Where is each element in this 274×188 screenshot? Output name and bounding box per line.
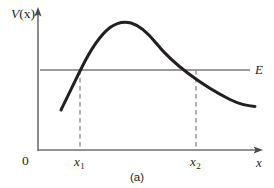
origin-label: 0	[22, 154, 29, 168]
potential-energy-figure: V(x) E x 0 x1 x2 (a)	[0, 0, 274, 188]
potential-energy-curve	[61, 22, 255, 110]
turning-point-2-subscript: 2	[196, 161, 201, 171]
y-axis-label-arg: (x)	[19, 6, 35, 21]
x-axis	[38, 146, 263, 153]
energy-level-label: E	[255, 63, 263, 76]
turning-point-2-symbol: x	[190, 154, 196, 169]
turning-point-1-symbol: x	[74, 154, 80, 169]
figure-caption: (a)	[0, 171, 274, 183]
turning-point-1-label: x1	[74, 155, 84, 168]
y-axis-label-v: V	[11, 6, 19, 21]
turning-point-1-subscript: 1	[80, 161, 85, 171]
y-axis-label: V(x)	[11, 7, 35, 21]
figure-canvas	[0, 0, 274, 188]
y-axis	[34, 7, 41, 151]
x-axis-label: x	[256, 156, 262, 169]
turning-point-2-label: x2	[190, 155, 200, 168]
